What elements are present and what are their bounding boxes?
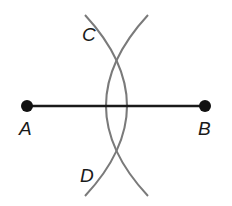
diagram-canvas: C A B D <box>0 0 232 206</box>
point-a <box>21 100 33 112</box>
label-a: A <box>19 119 32 138</box>
label-d: D <box>80 166 94 185</box>
construction-svg <box>0 0 232 206</box>
label-b: B <box>198 119 211 138</box>
point-b <box>199 100 211 112</box>
label-c: C <box>82 25 96 44</box>
